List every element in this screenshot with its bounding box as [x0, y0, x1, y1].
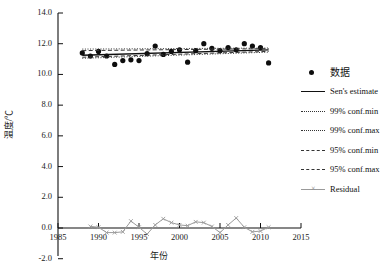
legend-item-label: 99% conf.min: [330, 106, 378, 116]
data-point: [153, 43, 158, 48]
x-tick-label: 2000: [163, 232, 197, 242]
legend-item[interactable]: ×Residual: [300, 179, 391, 199]
legend-marker-dashed-line-icon: [300, 144, 326, 156]
residual-marker: [234, 216, 238, 220]
legend-item-label: 数据: [330, 64, 350, 79]
y-axis-ticks: [58, 13, 63, 259]
chart-legend: 数据Sen's estimate99% conf.min99% conf.max…: [300, 62, 391, 199]
legend-marker-solid-line-icon: [300, 85, 326, 97]
legend-key-glyph: [301, 111, 325, 112]
legend-key-glyph: [301, 150, 325, 151]
legend-item-label: Sen's estimate: [330, 86, 378, 96]
y-tick-label: 0.0: [26, 222, 52, 232]
y-tick-label: -2.0: [26, 253, 52, 263]
legend-key-glyph: [309, 70, 314, 75]
legend-marker-dashed-line-icon: [300, 163, 326, 175]
data-point: [185, 60, 190, 65]
data-point: [120, 58, 125, 63]
legend-marker-dot-icon: [300, 66, 326, 78]
legend-item[interactable]: 99% conf.max: [300, 121, 391, 141]
residual-marker: [226, 223, 230, 227]
residual-marker: [153, 223, 157, 227]
legend-key-glyph: [301, 130, 325, 131]
legend-item-label: 95% conf.max: [330, 164, 380, 174]
y-tick-label: 2.0: [26, 191, 52, 201]
residual-marker: [242, 225, 246, 229]
chart-figure: -2.00.02.04.06.08.010.012.014.0 19851990…: [0, 0, 391, 273]
residual-marker: [129, 219, 133, 223]
legend-item[interactable]: Sen's estimate: [300, 82, 391, 102]
legend-item-label: Residual: [330, 184, 360, 194]
x-tick-label: 1995: [122, 232, 156, 242]
legend-item[interactable]: 95% conf.max: [300, 160, 391, 180]
legend-item[interactable]: 95% conf.min: [300, 140, 391, 160]
data-point: [112, 62, 117, 67]
x-tick-label: 1985: [41, 232, 75, 242]
legend-item-label: 95% conf.min: [330, 145, 378, 155]
y-tick-label: 12.0: [26, 38, 52, 48]
series-line: [82, 48, 268, 49]
y-tick-label: 6.0: [26, 130, 52, 140]
legend-key-glyph: [301, 91, 325, 92]
legend-marker-dotted-line-icon: [300, 105, 326, 117]
data-point: [128, 57, 133, 62]
legend-marker-dotted-line-icon: [300, 124, 326, 136]
x-axis-label: 年份: [150, 249, 168, 262]
data-point: [136, 58, 141, 63]
data-point: [242, 41, 247, 46]
data-point: [96, 49, 101, 54]
x-tick-label: 1990: [82, 232, 116, 242]
x-tick-label: 2015: [284, 232, 318, 242]
residual-marker: [267, 225, 271, 229]
legend-key-glyph: [301, 169, 325, 170]
legend-marker-residual-icon: ×: [300, 183, 326, 195]
y-tick-label: 14.0: [26, 7, 52, 17]
residual-x-icon: ×: [311, 185, 316, 193]
data-point: [266, 60, 271, 65]
y-axis-label: 温度/℃: [2, 103, 15, 147]
residual-marker: [161, 217, 165, 221]
x-tick-label: 2010: [244, 232, 278, 242]
chart-series: [80, 41, 272, 236]
y-tick-label: 8.0: [26, 99, 52, 109]
legend-item-label: 99% conf.max: [330, 125, 380, 135]
data-point: [201, 41, 206, 46]
legend-item[interactable]: 数据: [300, 62, 391, 82]
x-tick-label: 2005: [203, 232, 237, 242]
y-tick-label: 10.0: [26, 68, 52, 78]
legend-item[interactable]: 99% conf.min: [300, 101, 391, 121]
y-tick-label: 4.0: [26, 161, 52, 171]
